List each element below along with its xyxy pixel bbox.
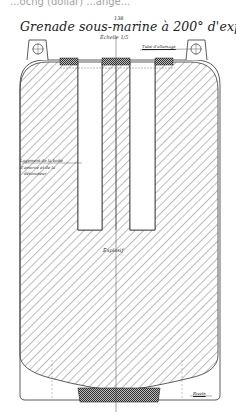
lug-right (186, 40, 207, 60)
label-logement-3: détonateur (24, 171, 46, 176)
grenade-cross-section (0, 0, 236, 415)
tube-right (130, 62, 155, 230)
leader-top-right (140, 49, 190, 50)
top-gasket-left (60, 58, 78, 65)
label-logement-1: Logement de la boîte (20, 158, 63, 163)
tube-left (78, 62, 102, 230)
lug-left (27, 40, 48, 60)
explosive-body (20, 62, 218, 390)
bottom-plug (78, 388, 160, 402)
label-rivets: Rivets (193, 391, 206, 396)
label-tube-allumage: Tube d'allumage (142, 44, 176, 49)
label-explosif: Explosif (103, 247, 123, 253)
label-logement-2: d'amorce et de la (20, 165, 55, 170)
top-gasket-right (155, 58, 173, 65)
